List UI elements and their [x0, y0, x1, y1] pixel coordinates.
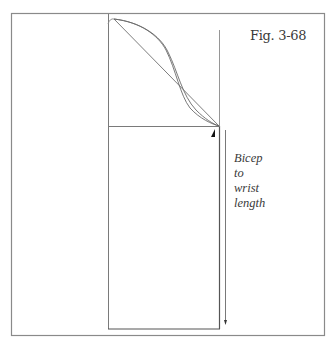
measurement-arrow-head [224, 320, 227, 325]
measurement-label-line: wrist [234, 181, 265, 196]
outer-frame [12, 14, 325, 336]
sleeve-draft-diagram [0, 0, 335, 345]
diagram-canvas: Fig. 3-68 Bicep to wrist length [0, 0, 335, 345]
measurement-label: Bicep to wrist length [234, 151, 265, 211]
notch-marker [211, 129, 215, 137]
measurement-label-line: to [234, 166, 265, 181]
cap-diagonal-guide [114, 19, 219, 126]
figure-label: Fig. 3-68 [250, 28, 306, 43]
measurement-label-line: Bicep [234, 151, 265, 166]
measurement-label-line: length [234, 196, 265, 211]
